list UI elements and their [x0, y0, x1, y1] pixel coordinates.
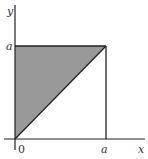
x-tick-label-a: a [101, 143, 108, 156]
y-tick-label-a: a [6, 40, 13, 53]
y-axis-label: y [6, 5, 14, 18]
origin-label: 0 [18, 143, 25, 156]
x-axis-label: x [138, 143, 145, 156]
region-diagram: y a 0 a x [0, 0, 148, 159]
